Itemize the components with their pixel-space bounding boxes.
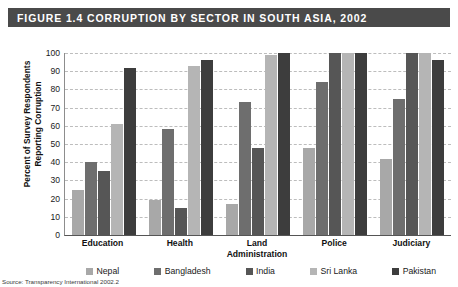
bar-group (297, 53, 374, 235)
y-axis-tick: 70 (38, 103, 60, 113)
plot-area (64, 53, 451, 236)
bar-bangladesh[interactable] (85, 162, 97, 235)
bar-india[interactable] (329, 53, 341, 235)
y-axis-tick: 10 (38, 212, 60, 222)
legend-label: Nepal (97, 266, 120, 276)
bar-sri-lanka[interactable] (342, 53, 354, 235)
bar-nepal[interactable] (380, 159, 392, 235)
y-axis-tick-labels: 0102030405060708090100 (38, 30, 60, 237)
bar-india[interactable] (252, 148, 264, 235)
chart-legend: NepalBangladeshIndiaSri LankaPakistan (64, 263, 450, 279)
legend-swatch-icon (310, 268, 317, 275)
gridline (65, 235, 451, 236)
bar-group (374, 53, 451, 235)
figure-title-bar: FIGURE 1.4 CORRUPTION BY SECTOR IN SOUTH… (8, 8, 450, 27)
legend-label: Bangladesh (165, 266, 211, 276)
bar-sri-lanka[interactable] (111, 124, 123, 235)
bar-pakistan[interactable] (124, 68, 136, 235)
chart-container: Percent of Survey Respondents Reporting … (0, 30, 458, 287)
bar-bangladesh[interactable] (393, 99, 405, 236)
bar-sri-lanka[interactable] (265, 55, 277, 235)
figure-title: FIGURE 1.4 CORRUPTION BY SECTOR IN SOUTH… (8, 12, 367, 24)
bar-india[interactable] (175, 208, 187, 235)
x-axis-label-judiciary: Judiciary (373, 238, 450, 249)
y-axis-tick: 30 (38, 175, 60, 185)
bar-bangladesh[interactable] (239, 102, 251, 235)
legend-swatch-icon (392, 268, 399, 275)
x-axis-label-police: Police (296, 238, 373, 249)
source-note: Source: Transparency International 2002.… (2, 278, 119, 285)
x-axis-label-health: Health (141, 238, 218, 249)
legend-item-nepal[interactable]: Nepal (86, 266, 119, 276)
y-axis-tick: 90 (38, 66, 60, 76)
x-axis-label-education: Education (64, 238, 141, 249)
legend-swatch-icon (86, 268, 93, 275)
bar-group (219, 53, 296, 235)
bar-nepal[interactable] (226, 204, 238, 235)
bar-india[interactable] (406, 53, 418, 235)
legend-label: Sri Lanka (320, 266, 357, 276)
y-axis-tick: 100 (38, 48, 60, 58)
y-axis-tick: 80 (38, 84, 60, 94)
bar-pakistan[interactable] (355, 53, 367, 235)
y-axis-tick: 60 (38, 121, 60, 131)
legend-item-india[interactable]: India (246, 266, 275, 276)
bar-sri-lanka[interactable] (188, 66, 200, 235)
bar-india[interactable] (98, 171, 110, 235)
bar-nepal[interactable] (303, 148, 315, 235)
bar-bangladesh[interactable] (316, 82, 328, 235)
legend-label: India (256, 266, 275, 276)
x-axis-label-land: Land Administration (218, 238, 295, 259)
legend-swatch-icon (246, 268, 253, 275)
bar-pakistan[interactable] (278, 53, 290, 235)
legend-item-bangladesh[interactable]: Bangladesh (154, 266, 210, 276)
bar-bangladesh[interactable] (162, 129, 174, 235)
y-axis-tick: 0 (38, 230, 60, 240)
x-axis-category-labels: EducationHealthLand AdministrationPolice… (64, 238, 450, 264)
y-axis-tick: 20 (38, 194, 60, 204)
y-axis-tick: 40 (38, 157, 60, 167)
bar-pakistan[interactable] (201, 60, 213, 235)
legend-swatch-icon (154, 268, 161, 275)
bar-nepal[interactable] (149, 200, 161, 235)
bar-group (142, 53, 219, 235)
legend-label: Pakistan (403, 266, 436, 276)
y-axis-tick: 50 (38, 139, 60, 149)
legend-item-sri-lanka[interactable]: Sri Lanka (310, 266, 357, 276)
bar-group (65, 53, 142, 235)
bar-pakistan[interactable] (432, 60, 444, 235)
legend-item-pakistan[interactable]: Pakistan (392, 266, 436, 276)
bar-sri-lanka[interactable] (419, 53, 431, 235)
bar-nepal[interactable] (72, 190, 84, 236)
